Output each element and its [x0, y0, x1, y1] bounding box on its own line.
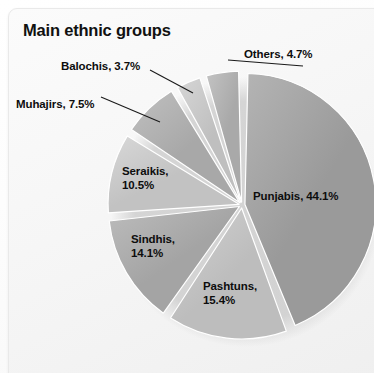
page-title: Main ethnic groups — [23, 21, 171, 40]
chart-card: Main ethnic groups — [8, 8, 374, 373]
chart-screenshot: Main ethnic groups Punjabis, 44.1%Pashtu… — [0, 0, 374, 373]
